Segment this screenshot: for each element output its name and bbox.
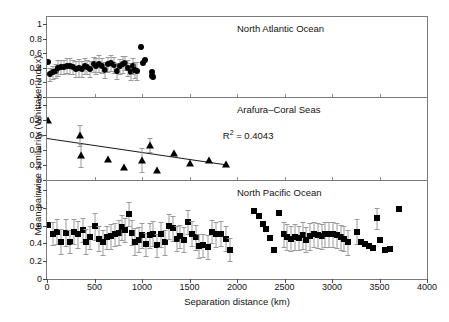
data-point [153, 166, 161, 173]
error-bar-cap-upper [80, 218, 85, 219]
y-tick-label-0-0.4: 0.4 [29, 63, 42, 72]
data-point [205, 156, 213, 163]
error-bar-cap-lower [159, 247, 164, 248]
x-axis-label: Separation distance (km) [46, 296, 428, 307]
error-bar-cap-lower [135, 80, 140, 81]
data-point [120, 163, 128, 170]
data-point [227, 247, 233, 253]
y-tick-1-1 [43, 105, 47, 106]
x-tick-label-2500: 2500 [274, 283, 294, 292]
error-bar-cap-upper [189, 221, 194, 222]
panel-north-atlantic: 00.20.40.60.81North Atlantic Ocean [46, 16, 428, 97]
data-point [158, 231, 164, 237]
error-bar-cap-lower [163, 255, 168, 256]
x-tick-label-3500: 3500 [369, 283, 389, 292]
error-bar-cap-lower [147, 248, 152, 249]
y-tick-label-1-0: 0 [37, 176, 42, 185]
error-bar-cap-lower [209, 243, 214, 244]
error-bar-cap-lower [96, 251, 101, 252]
error-bar-cap-upper [116, 220, 121, 221]
y-tick-1-0.8 [43, 120, 47, 121]
error-bar-cap-lower [346, 255, 351, 256]
error-bar-cap-upper [304, 227, 309, 228]
error-bar-cap-lower [133, 255, 138, 256]
y-tick-label-1-0.4: 0.4 [29, 146, 42, 155]
error-bar-cap-lower [197, 258, 202, 259]
y-tick-0-0.4 [43, 68, 47, 69]
y-tick-0-0.8 [43, 39, 47, 40]
y-tick-0-0.6 [43, 53, 47, 54]
error-bar-cap-lower [130, 245, 135, 246]
error-bar-cap-lower [143, 256, 148, 257]
error-bar-cap-upper [159, 222, 164, 223]
error-bar-cap-upper [140, 223, 145, 224]
y-tick-2-0.6 [43, 226, 47, 227]
error-bar-cap-upper [101, 230, 106, 231]
error-bar-cap-lower [140, 172, 145, 173]
y-tick-label-2-0: 0 [37, 275, 42, 284]
x-tick-label-2000: 2000 [227, 283, 247, 292]
error-bar-cap-lower [228, 261, 233, 262]
data-point [138, 44, 144, 50]
error-bar-cap-lower [63, 246, 68, 247]
x-tick-label-1000: 1000 [132, 283, 152, 292]
data-point [58, 239, 64, 245]
error-bar-cap-upper [104, 226, 109, 227]
error-bar-cap-upper [63, 219, 68, 220]
error-bar-cap-upper [76, 59, 81, 60]
error-bar-cap-upper [147, 223, 152, 224]
x-tick-label-3000: 3000 [322, 283, 342, 292]
data-point [150, 74, 156, 80]
error-bar-cap-lower [189, 246, 194, 247]
error-bar-cap-lower [79, 77, 84, 78]
y-tick-1-0.4 [43, 150, 47, 151]
y-tick-label-2-0.6: 0.6 [29, 221, 42, 230]
error-bar-cap-upper [123, 218, 128, 219]
error-bar-cap-lower [140, 248, 145, 249]
r2-symbol: R2 = 0.4043 [223, 130, 274, 141]
error-bar-cap-lower [178, 248, 183, 249]
error-bar-cap-lower [101, 255, 106, 256]
data-point [47, 59, 51, 65]
error-bar-cap-lower [281, 247, 286, 248]
error-bar-cap-lower [62, 74, 67, 75]
error-bar-cap-lower [289, 251, 294, 252]
error-bar-cap-lower [88, 77, 93, 78]
error-bar-cap-upper [300, 222, 305, 223]
error-bar-cap-upper [178, 225, 183, 226]
error-bar-cap-upper [92, 213, 97, 214]
y-tick-label-2-0.8: 0.8 [29, 203, 42, 212]
error-bar-cap-lower [123, 242, 128, 243]
y-tick-label-0-0.8: 0.8 [29, 34, 42, 43]
error-bar-cap-lower [50, 245, 55, 246]
error-bar-cap-lower [342, 251, 347, 252]
error-bar-cap-upper [126, 60, 131, 61]
data-point [354, 229, 360, 235]
error-bar-cap-upper [109, 224, 114, 225]
error-bar-cap-lower [128, 80, 133, 81]
error-bar-cap-upper [133, 228, 138, 229]
x-tick-label-1500: 1500 [179, 283, 199, 292]
error-bar-cap-upper [214, 222, 219, 223]
error-bar-cap-upper [76, 221, 81, 222]
y-tick-label-2-0.4: 0.4 [29, 239, 42, 248]
error-bar-cap-upper [186, 210, 191, 211]
error-bar-cap-upper [55, 219, 60, 220]
data-point [387, 246, 393, 252]
error-bar-cap-lower [56, 76, 61, 77]
error-bar-cap-lower [136, 252, 141, 253]
error-bar-cap-upper [112, 223, 117, 224]
error-bar-cap-upper [84, 229, 89, 230]
error-bar-cap-upper [285, 224, 290, 225]
panel-title-0: North Atlantic Ocean [237, 23, 324, 34]
error-bar-cap-upper [68, 58, 73, 59]
error-bar-cap-lower [76, 248, 81, 249]
error-bar-cap-upper [163, 230, 168, 231]
error-bar-cap-upper [342, 226, 347, 227]
error-bar-cap-upper [151, 221, 156, 222]
error-bar-cap-lower [319, 249, 324, 250]
error-bar-cap-upper [308, 223, 313, 224]
error-bar-cap-upper [147, 138, 152, 139]
error-bar-cap-lower [88, 249, 93, 250]
error-bar-cap-upper [182, 227, 187, 228]
